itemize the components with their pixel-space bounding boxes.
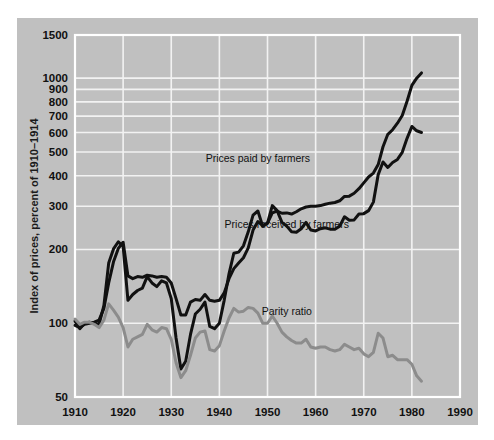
chart-figure: 191019201930194019501960197019801990 501… xyxy=(0,0,494,440)
y-tick-label: 700 xyxy=(49,110,68,122)
x-tick-label: 1990 xyxy=(447,406,473,418)
gridlines xyxy=(75,35,460,397)
y-tick-label: 100 xyxy=(49,317,68,329)
x-tick-label: 1950 xyxy=(255,406,281,418)
series-line xyxy=(75,304,422,381)
y-tick-label: 400 xyxy=(49,170,68,182)
parity-ratio-label: Parity ratio xyxy=(262,305,312,317)
y-tick-label: 50 xyxy=(55,391,68,403)
prices-paid-label: Prices paid by farmers xyxy=(206,152,310,164)
y-tick-label: 500 xyxy=(49,146,68,158)
y-tick-label: 1000 xyxy=(42,72,68,84)
y-axis-title: Index of prices, percent of 1910–1914 xyxy=(28,118,40,314)
x-axis-tick-labels: 191019201930194019501960197019801990 xyxy=(62,406,473,418)
y-tick-label: 600 xyxy=(49,127,68,139)
x-tick-label: 1910 xyxy=(62,406,88,418)
x-tick-label: 1970 xyxy=(351,406,377,418)
x-tick-label: 1930 xyxy=(158,406,184,418)
x-tick-label: 1920 xyxy=(110,406,136,418)
chart-plot-area: 191019201930194019501960197019801990 501… xyxy=(0,0,494,440)
y-tick-label: 1500 xyxy=(42,29,68,41)
x-tick-label: 1980 xyxy=(399,406,425,418)
x-tick-label: 1960 xyxy=(303,406,329,418)
x-tick-label: 1940 xyxy=(207,406,233,418)
y-tick-label: 900 xyxy=(49,83,68,95)
y-axis-tick-labels: 5010020030040050060070080090010001500 xyxy=(42,29,68,403)
y-tick-label: 800 xyxy=(49,96,68,108)
y-tick-label: 300 xyxy=(49,200,68,212)
y-tick-label: 200 xyxy=(49,243,68,255)
prices-received-label: Prices received by farmers xyxy=(225,218,349,230)
